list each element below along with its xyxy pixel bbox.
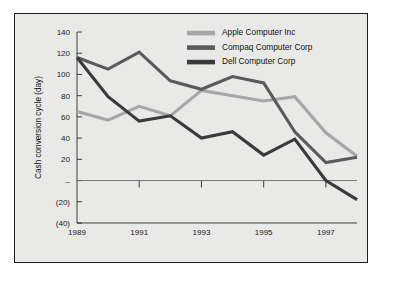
y-tick-label: 40 xyxy=(61,134,70,143)
x-tick-label: 1993 xyxy=(193,228,211,237)
chart-frame: 14012010080604020–(20)(40) 1989199119931… xyxy=(14,13,368,263)
x-tick-label: 1995 xyxy=(255,228,273,237)
x-tick-label: 1997 xyxy=(317,228,335,237)
series-line-1 xyxy=(77,52,357,162)
y-axis-tick-labels: 14012010080604020–(20)(40) xyxy=(56,28,71,228)
y-tick-label: – xyxy=(66,177,71,186)
x-tick-label: 1991 xyxy=(130,228,148,237)
y-axis-title-group: Cash conversion cycle (day) xyxy=(34,76,43,179)
legend-swatch xyxy=(187,45,215,50)
legend-label: Apple Computer Inc xyxy=(222,27,295,37)
y-tick-label: 80 xyxy=(61,92,70,101)
y-tick-label: 100 xyxy=(57,70,71,79)
figure-container: 14012010080604020–(20)(40) 1989199119931… xyxy=(0,0,396,287)
legend-swatch xyxy=(187,31,215,36)
y-axis-title: Cash conversion cycle (day) xyxy=(34,76,43,179)
y-tick-label: 20 xyxy=(61,155,70,164)
y-tick-label: (40) xyxy=(56,219,71,228)
y-tick-label: 60 xyxy=(61,113,70,122)
x-tick-label: 1989 xyxy=(68,228,86,237)
legend-label: Compaq Computer Corp xyxy=(222,42,313,52)
x-axis-tick-labels: 19891991199319951997 xyxy=(68,228,335,237)
series-line-2 xyxy=(77,57,357,199)
chart-legend: Apple Computer IncCompaq Computer CorpDe… xyxy=(187,27,313,66)
axis-lines xyxy=(77,32,357,223)
line-chart[interactable]: 14012010080604020–(20)(40) 1989199119931… xyxy=(15,14,369,264)
y-tick-label: 140 xyxy=(57,28,71,37)
series-line-0 xyxy=(77,90,357,156)
legend-swatch xyxy=(187,60,215,65)
y-tick-label: (20) xyxy=(56,198,71,207)
y-tick-label: 120 xyxy=(57,49,71,58)
data-series-group xyxy=(77,52,357,199)
legend-label: Dell Computer Corp xyxy=(222,56,296,66)
